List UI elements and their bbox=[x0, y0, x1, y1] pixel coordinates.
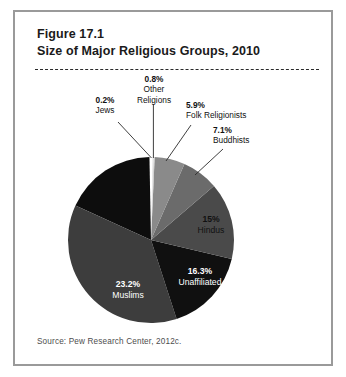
callout-jews: 0.2% Jews bbox=[77, 95, 133, 116]
slice-label-unaffiliated-pct: 16.3% bbox=[162, 266, 238, 277]
leader-line-folk-religionists bbox=[166, 125, 191, 161]
callout-folk-religionists-name: Folk Religionists bbox=[186, 110, 246, 120]
callout-buddhists-name: Buddhists bbox=[213, 135, 249, 145]
callout-folk-religionists: 5.9% Folk Religionists bbox=[186, 100, 246, 121]
slice-label-muslims-pct: 23.2% bbox=[95, 279, 161, 290]
slice-label-muslims: 23.2% Muslims bbox=[95, 279, 161, 301]
slice-label-unaffiliated: 16.3% Unaffiliated bbox=[162, 266, 238, 288]
pie-chart-svg bbox=[15, 12, 335, 368]
slice-label-muslims-name: Muslims bbox=[95, 290, 161, 301]
slice-label-hindus-pct: 15% bbox=[180, 214, 242, 225]
slice-label-hindus: 15% Hindus bbox=[180, 214, 242, 236]
callout-jews-name: Jews bbox=[77, 105, 133, 115]
slice-label-unaffiliated-name: Unaffiliated bbox=[162, 277, 238, 288]
callout-other-religions-pct: 0.8% bbox=[119, 74, 189, 84]
pie-chart: 0.8% Other Religions 0.2% Jews 5.9% Folk… bbox=[15, 12, 335, 368]
leader-line-jews bbox=[118, 122, 152, 158]
source-note: Source: Pew Research Center, 2012c. bbox=[37, 337, 182, 346]
callout-other-religions-line1: Other bbox=[119, 84, 189, 94]
callout-buddhists-pct: 7.1% bbox=[213, 125, 249, 135]
callout-buddhists: 7.1% Buddhists bbox=[213, 125, 249, 146]
callout-jews-pct: 0.2% bbox=[77, 95, 133, 105]
slice-label-hindus-name: Hindus bbox=[180, 225, 242, 236]
leader-line-buddhists bbox=[195, 149, 223, 175]
figure-frame: Figure 17.1 Size of Major Religious Grou… bbox=[13, 10, 333, 366]
callout-folk-religionists-pct: 5.9% bbox=[186, 100, 246, 110]
